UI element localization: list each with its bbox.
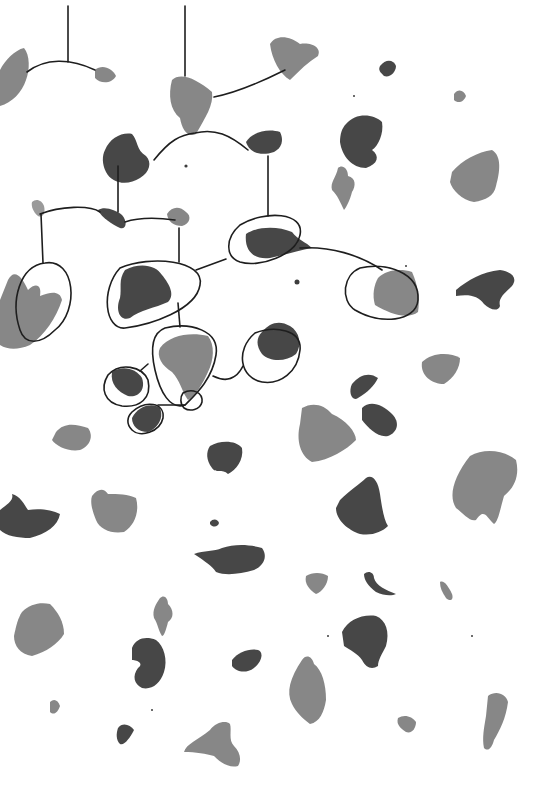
- mobile-wire: [214, 70, 285, 97]
- blot-right-large: [450, 150, 499, 202]
- blot-top-center: [170, 76, 212, 135]
- blot-top-right-dash: [379, 61, 396, 77]
- blot-lower-butterfly: [184, 722, 240, 767]
- blot-lower-right-small: [397, 716, 416, 732]
- blot-dark-bird-lower: [194, 545, 265, 574]
- blot-left-center-square: [91, 490, 137, 533]
- blot-tiny-upper-left: [32, 200, 45, 217]
- ink-loops-layer: [16, 215, 418, 433]
- mobile-wire: [41, 214, 43, 263]
- blot-top-right-tiny: [454, 90, 466, 102]
- ink-mobile-artwork: [0, 0, 551, 789]
- blot-right-hook: [364, 572, 396, 595]
- blot-dark-dancers-1: [350, 375, 378, 399]
- blot-lower-dark-small: [117, 724, 134, 744]
- blot-left-large: [0, 274, 62, 349]
- blot-mid-right-loop: [258, 323, 300, 360]
- blot-lower-dark-kidney: [132, 638, 166, 688]
- mobile-wire: [125, 218, 175, 222]
- blot-lower-dark-right: [342, 616, 388, 668]
- blot-right-small-1: [306, 573, 328, 594]
- ink-speck: [405, 265, 407, 267]
- mobile-wire: [154, 131, 248, 160]
- ink-speck: [327, 635, 329, 637]
- blot-lower-small-figure: [153, 596, 172, 636]
- blot-dark-center-mid: [207, 442, 242, 474]
- blot-lower-left-large: [14, 603, 64, 656]
- ink-speck: [184, 164, 187, 167]
- artwork-canvas: [0, 0, 551, 789]
- blot-right-dark-bird: [456, 270, 514, 310]
- blot-small-left-loop: [112, 368, 143, 396]
- blot-small-figure: [332, 166, 355, 210]
- blot-right-tiny-2: [440, 582, 453, 600]
- ink-speck: [353, 95, 355, 97]
- mobile-wire: [40, 207, 100, 214]
- blot-left-dark-bird: [0, 494, 60, 538]
- blot-dark-dash: [98, 208, 126, 228]
- watercolor-blots-layer: [0, 37, 517, 766]
- blot-top-left-edge: [0, 48, 29, 106]
- blot-center-dark: [118, 265, 171, 318]
- ink-speck: [295, 280, 300, 285]
- mobile-wire: [140, 364, 148, 371]
- blot-lower-dark-center: [232, 649, 261, 671]
- blot-lower-tiny-left: [50, 700, 60, 714]
- blot-dark-right-mobile: [246, 130, 282, 153]
- ink-specks-layer: [151, 95, 473, 711]
- blot-lower-center-tall: [289, 657, 326, 724]
- blot-dark-center-right: [336, 477, 388, 535]
- blot-upper-right-dark: [246, 228, 312, 259]
- mobile-wire: [178, 303, 180, 327]
- blot-right-jelly: [452, 451, 517, 524]
- blot-top-left-small: [95, 67, 116, 82]
- mobile-wire: [213, 366, 243, 379]
- blot-mid-bottom-loop: [159, 334, 213, 400]
- blot-small-center-top: [167, 208, 189, 226]
- blot-center-square: [299, 405, 357, 462]
- blot-right-mid-small: [422, 354, 460, 384]
- blot-left-small-mid: [52, 425, 91, 451]
- blot-right-loop: [374, 270, 419, 316]
- mobile-wire: [27, 61, 95, 72]
- blot-dot-center: [210, 519, 219, 526]
- ink-speck: [471, 635, 473, 637]
- blot-dark-dancers-2: [362, 404, 397, 437]
- mobile-wire: [196, 259, 226, 270]
- blot-dark-kidney-top-right: [340, 116, 382, 169]
- blot-lower-right-leaf: [483, 693, 508, 749]
- ink-speck: [151, 709, 153, 711]
- blot-dark-left-mobile: [103, 134, 150, 183]
